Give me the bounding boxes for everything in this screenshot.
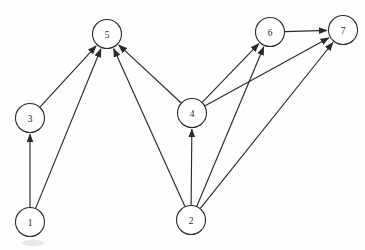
graph-canvas: 1234567 <box>0 0 365 250</box>
graph-edge-4-to-6 <box>202 44 258 103</box>
graph-node-2[interactable]: 2 <box>177 206 206 235</box>
graph-edge-3-to-5 <box>40 46 96 107</box>
node-label-7: 7 <box>341 26 346 36</box>
graph-node-6[interactable]: 6 <box>256 18 285 47</box>
node-label-4: 4 <box>190 109 195 119</box>
graph-edge-2-to-6 <box>197 47 264 206</box>
scan-artifact <box>22 240 44 246</box>
graph-node-1[interactable]: 1 <box>16 208 45 237</box>
graph-node-5[interactable]: 5 <box>93 20 122 49</box>
graph-edge-2-to-5 <box>114 49 185 207</box>
node-label-6: 6 <box>268 28 273 38</box>
node-label-5: 5 <box>105 30 110 40</box>
graph-node-7[interactable]: 7 <box>329 16 358 45</box>
node-label-3: 3 <box>28 114 33 124</box>
graph-edge-4-to-5 <box>119 45 181 103</box>
graph-edge-1-to-5 <box>36 49 101 208</box>
graph-edge-4-to-7 <box>205 38 329 106</box>
node-label-1: 1 <box>28 218 33 228</box>
directed-graph-figure: 1234567 <box>0 0 365 250</box>
graph-edge-2-to-7 <box>200 42 333 208</box>
graph-edge-6-to-7 <box>285 30 327 31</box>
graph-node-3[interactable]: 3 <box>16 104 45 133</box>
node-layer: 1234567 <box>16 16 358 237</box>
node-label-2: 2 <box>189 216 194 226</box>
graph-node-4[interactable]: 4 <box>178 99 207 128</box>
graph-edge-2-to-4 <box>191 129 192 205</box>
